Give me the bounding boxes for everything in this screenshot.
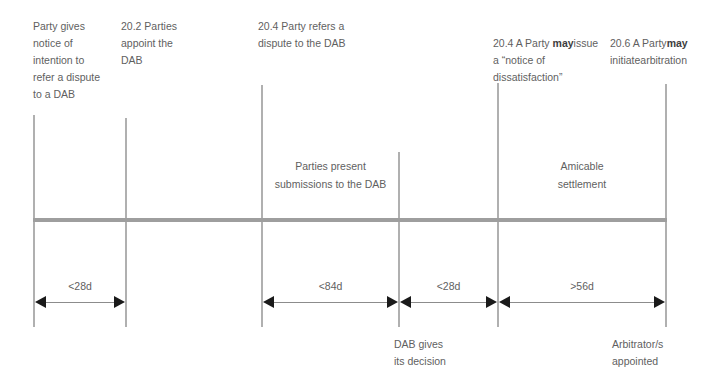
dispute-resolution-timeline-diagram: Party gives notice of intention to refer… bbox=[0, 0, 702, 385]
milestone-label-arbitration-line2-rest: initiate bbox=[610, 54, 640, 66]
emphasis-may-arbitration: may bbox=[667, 37, 688, 49]
duration-line-3 bbox=[408, 302, 489, 303]
milestone-label-initiate-arbitration: 20.6 A Partymay initiatearbitration bbox=[610, 18, 702, 69]
arrow-head-left-4 bbox=[499, 296, 510, 308]
milestone-label-notice-of-dissatisfaction: 20.4 A Party mayissue a “notice of dissa… bbox=[493, 18, 605, 86]
duration-line-1 bbox=[43, 302, 117, 303]
arrow-head-left-2 bbox=[263, 296, 274, 308]
duration-arrow-84d-submissions: <84d bbox=[263, 293, 398, 311]
duration-label-84d-submissions: <84d bbox=[263, 280, 398, 293]
duration-line-4 bbox=[507, 302, 657, 303]
milestone-label-arbitration-line3: arbitration bbox=[640, 54, 687, 66]
duration-label-56d-amicable: >56d bbox=[499, 280, 665, 293]
arrow-head-right-1 bbox=[114, 296, 125, 308]
duration-arrow-28d-appointment: <28d bbox=[35, 293, 125, 311]
arrow-head-right-3 bbox=[486, 296, 497, 308]
arrow-head-left-1 bbox=[35, 296, 46, 308]
outcome-label-arbitrators-appointed: Arbitrator/s appointed bbox=[612, 336, 702, 370]
duration-arrow-28d-dissatisfaction: <28d bbox=[400, 293, 497, 311]
duration-arrow-56d-amicable: >56d bbox=[499, 293, 665, 311]
duration-line-2 bbox=[271, 302, 390, 303]
phase-label-amicable-settlement: Amicable settlement bbox=[499, 157, 665, 193]
milestone-line-2 bbox=[125, 118, 127, 327]
milestone-label-notice-of-intention: Party gives notice of intention to refer… bbox=[33, 18, 117, 103]
timeline-axis-bar bbox=[33, 218, 667, 222]
milestone-line-6 bbox=[665, 84, 667, 327]
milestone-label-parties-appoint-dab: 20.2 Parties appoint the DAB bbox=[121, 18, 213, 69]
arrow-head-left-3 bbox=[400, 296, 411, 308]
arrow-head-right-4 bbox=[654, 296, 665, 308]
outcome-label-dab-decision: DAB gives its decision bbox=[394, 336, 514, 370]
milestone-label-dissatisfaction-prefix: 20.4 A Party bbox=[493, 37, 553, 49]
emphasis-may-dissatisfaction: may bbox=[553, 37, 574, 49]
duration-label-28d-appointment: <28d bbox=[35, 280, 125, 293]
duration-label-28d-dissatisfaction: <28d bbox=[400, 280, 497, 293]
phase-label-parties-present-submissions: Parties present submissions to the DAB bbox=[263, 157, 398, 193]
milestone-label-arbitration-line1: 20.6 A Party bbox=[610, 37, 667, 49]
arrow-head-right-2 bbox=[387, 296, 398, 308]
milestone-label-party-refers-dispute: 20.4 Party refers a dispute to the DAB bbox=[258, 18, 398, 52]
